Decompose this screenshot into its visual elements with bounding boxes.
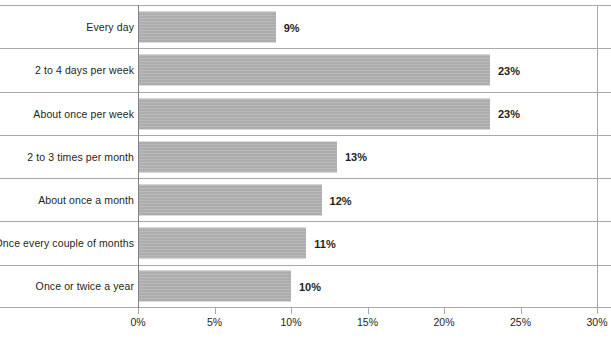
chart-plot-area: Every day9%2 to 4 days per week23%About …: [0, 5, 611, 308]
bar-value-label: 10%: [299, 280, 321, 292]
bar[interactable]: [138, 141, 337, 172]
x-axis-tick-label: 25%: [510, 316, 531, 328]
bar[interactable]: [138, 185, 322, 216]
chart-row: Once or twice a year10%: [0, 265, 611, 308]
x-axis-tick-label: 15%: [357, 316, 378, 328]
category-label: 2 to 4 days per week: [35, 64, 134, 76]
bar[interactable]: [138, 271, 291, 302]
bar[interactable]: [138, 55, 490, 86]
chart-row: 2 to 3 times per month13%: [0, 135, 611, 178]
x-axis-tick-mark: [138, 308, 139, 314]
x-axis-tick-label: 0%: [130, 316, 145, 328]
x-axis-tick-mark: [368, 308, 369, 314]
bar[interactable]: [138, 12, 276, 43]
x-axis-tick-mark: [215, 308, 216, 314]
chart-row: Every day9%: [0, 5, 611, 48]
bar-value-label: 13%: [345, 151, 367, 163]
x-axis-tick-label: 20%: [433, 316, 454, 328]
bar-value-label: 23%: [498, 64, 520, 76]
bar-track: 13%: [138, 141, 597, 172]
chart-row: Once every couple of months11%: [0, 221, 611, 264]
bar-track: 11%: [138, 228, 597, 259]
x-axis-tick-mark: [521, 308, 522, 314]
bar-value-label: 9%: [284, 21, 300, 33]
bar-track: 23%: [138, 98, 597, 129]
x-axis-tick-label: 5%: [207, 316, 222, 328]
category-label: Once every couple of months: [0, 237, 134, 249]
category-label: Every day: [86, 21, 134, 33]
y-axis-spine: [138, 5, 139, 308]
chart-row: About once a month12%: [0, 178, 611, 221]
x-axis-tick-mark: [597, 308, 598, 314]
chart-row: About once per week23%: [0, 92, 611, 135]
category-label: 2 to 3 times per month: [27, 151, 134, 163]
x-axis-tick-label: 10%: [280, 316, 301, 328]
bar-track: 23%: [138, 55, 597, 86]
category-label: Once or twice a year: [36, 280, 134, 292]
x-axis-tick-mark: [291, 308, 292, 314]
bar-track: 12%: [138, 185, 597, 216]
bar-track: 9%: [138, 12, 597, 43]
x-axis-tick-label: 30%: [586, 316, 607, 328]
x-axis: 0%5%10%15%20%25%30%: [0, 308, 611, 338]
chart-row: 2 to 4 days per week23%: [0, 48, 611, 91]
category-label: About once per week: [33, 108, 134, 120]
bar-value-label: 12%: [330, 194, 352, 206]
x-axis-tick-mark: [444, 308, 445, 314]
plot-right-edge: [597, 5, 598, 308]
bar[interactable]: [138, 228, 306, 259]
bar-value-label: 11%: [314, 237, 335, 249]
bar-value-label: 23%: [498, 108, 520, 120]
bar[interactable]: [138, 98, 490, 129]
bar-chart: Every day9%2 to 4 days per week23%About …: [0, 0, 611, 338]
bar-track: 10%: [138, 271, 597, 302]
category-label: About once a month: [38, 194, 134, 206]
